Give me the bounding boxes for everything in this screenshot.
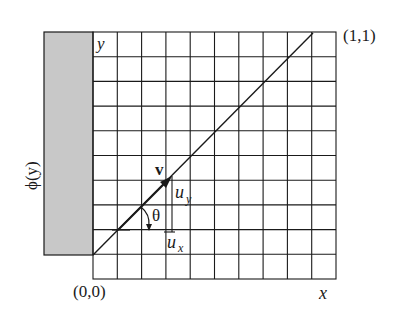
svg-text:y: y (185, 192, 192, 206)
corner-label: (1,1) (343, 26, 376, 45)
phi-shaded-region (44, 32, 93, 255)
origin-label: (0,0) (73, 282, 106, 301)
phi-label: ϕ(y) (22, 161, 41, 190)
svg-text:u: u (167, 232, 176, 252)
uy-label: u y (175, 182, 192, 206)
x-axis-label: x (318, 283, 327, 303)
ux-label: u x (167, 232, 184, 255)
velocity-vector (118, 176, 172, 230)
theta-arc (141, 207, 149, 226)
svg-text:x: x (177, 241, 184, 255)
grid (93, 32, 336, 279)
theta-label: θ (152, 206, 160, 225)
flow-diagram: y x (0,0) (1,1) ϕ(y) v θ u y u x (0, 0, 404, 315)
y-axis-label: y (95, 34, 105, 53)
svg-text:u: u (175, 182, 184, 202)
vector-label: v (155, 160, 164, 179)
